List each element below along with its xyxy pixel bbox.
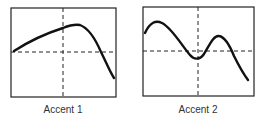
- panel-accent-1: [11, 8, 116, 97]
- caption-accent-2: Accent 2: [158, 104, 238, 115]
- panel-accent-2: [143, 7, 254, 96]
- curve: [14, 25, 114, 78]
- caption-accent-1: Accent 1: [23, 104, 103, 115]
